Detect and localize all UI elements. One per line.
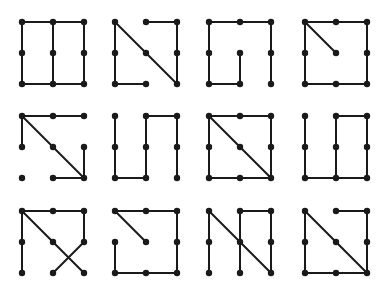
grid-dot bbox=[50, 144, 56, 150]
grid-dot bbox=[206, 19, 212, 25]
grid-dot bbox=[302, 208, 308, 214]
grid-dot bbox=[50, 208, 56, 214]
pattern-10 bbox=[112, 208, 180, 276]
pattern-12 bbox=[302, 208, 370, 276]
grid-dot bbox=[206, 239, 212, 245]
grid-dot bbox=[174, 19, 180, 25]
pattern-4 bbox=[302, 19, 370, 87]
grid-dot bbox=[268, 270, 274, 276]
grid-dot bbox=[19, 113, 25, 119]
grid-dot bbox=[237, 113, 243, 119]
pattern-6 bbox=[112, 113, 180, 181]
grid-dot bbox=[81, 270, 87, 276]
grid-dot bbox=[333, 113, 339, 119]
grid-dot bbox=[19, 19, 25, 25]
grid-dot bbox=[50, 270, 56, 276]
grid-dot bbox=[19, 144, 25, 150]
pattern-8 bbox=[302, 113, 370, 181]
grid-dot bbox=[302, 81, 308, 87]
grid-dot bbox=[302, 270, 308, 276]
grid-dot bbox=[237, 81, 243, 87]
grid-dot bbox=[206, 175, 212, 181]
pattern-7 bbox=[206, 113, 274, 181]
grid-dot bbox=[112, 144, 118, 150]
grid-dot bbox=[19, 175, 25, 181]
grid-dot bbox=[268, 50, 274, 56]
grid-dot bbox=[206, 270, 212, 276]
grid-dot bbox=[50, 239, 56, 245]
grid-dot bbox=[50, 81, 56, 87]
grid-dot bbox=[112, 81, 118, 87]
grid-dot bbox=[206, 113, 212, 119]
grid-dot bbox=[112, 19, 118, 25]
grid-dot bbox=[174, 208, 180, 214]
grid-dot bbox=[81, 144, 87, 150]
grid-dot bbox=[112, 50, 118, 56]
grid-dot bbox=[143, 81, 149, 87]
grid-dot bbox=[206, 50, 212, 56]
grid-dot bbox=[19, 270, 25, 276]
grid-dot bbox=[143, 113, 149, 119]
grid-dot bbox=[364, 270, 370, 276]
grid-dot bbox=[237, 270, 243, 276]
grid-dot bbox=[112, 239, 118, 245]
dot-pattern-figure bbox=[0, 0, 390, 296]
grid-dot bbox=[364, 50, 370, 56]
grid-dot bbox=[143, 270, 149, 276]
grid-dot bbox=[237, 175, 243, 181]
line-segment bbox=[115, 211, 146, 242]
line-segment bbox=[305, 22, 336, 53]
pattern-5 bbox=[19, 113, 87, 181]
grid-dot bbox=[364, 175, 370, 181]
grid-dot bbox=[364, 208, 370, 214]
grid-dot bbox=[50, 50, 56, 56]
grid-dot bbox=[237, 19, 243, 25]
grid-dot bbox=[364, 81, 370, 87]
grid-dot bbox=[268, 239, 274, 245]
pattern-1 bbox=[19, 19, 87, 87]
grid-dot bbox=[333, 144, 339, 150]
pattern-9 bbox=[19, 208, 87, 276]
grid-dot bbox=[302, 113, 308, 119]
grid-dot bbox=[237, 239, 243, 245]
grid-dot bbox=[268, 113, 274, 119]
grid-dot bbox=[268, 208, 274, 214]
grid-dot bbox=[364, 19, 370, 25]
grid-dot bbox=[333, 19, 339, 25]
grid-dot bbox=[143, 175, 149, 181]
grid-dot bbox=[81, 113, 87, 119]
grid-dot bbox=[174, 239, 180, 245]
grid-dot bbox=[112, 113, 118, 119]
grid-dot bbox=[333, 50, 339, 56]
grid-dot bbox=[206, 208, 212, 214]
grid-dot bbox=[143, 239, 149, 245]
grid-dot bbox=[364, 239, 370, 245]
grid-dot bbox=[112, 208, 118, 214]
grid-dot bbox=[174, 270, 180, 276]
grid-dot bbox=[302, 144, 308, 150]
grid-dot bbox=[174, 81, 180, 87]
pattern-3 bbox=[206, 19, 274, 87]
grid-dot bbox=[364, 144, 370, 150]
grid-dot bbox=[237, 50, 243, 56]
grid-dot bbox=[143, 50, 149, 56]
grid-dot bbox=[333, 270, 339, 276]
grid-dot bbox=[19, 50, 25, 56]
grid-dot bbox=[333, 175, 339, 181]
pattern-11 bbox=[206, 208, 274, 276]
grid-dot bbox=[174, 113, 180, 119]
grid-dot bbox=[268, 81, 274, 87]
grid-dot bbox=[237, 208, 243, 214]
grid-dot bbox=[174, 50, 180, 56]
grid-dot bbox=[268, 144, 274, 150]
grid-dot bbox=[206, 81, 212, 87]
grid-dot bbox=[268, 175, 274, 181]
grid-dot bbox=[112, 175, 118, 181]
grid-dot bbox=[50, 19, 56, 25]
grid-dot bbox=[206, 144, 212, 150]
grid-dot bbox=[333, 81, 339, 87]
grid-dot bbox=[81, 50, 87, 56]
grid-dot bbox=[112, 270, 118, 276]
grid-dot bbox=[81, 208, 87, 214]
grid-dot bbox=[237, 144, 243, 150]
